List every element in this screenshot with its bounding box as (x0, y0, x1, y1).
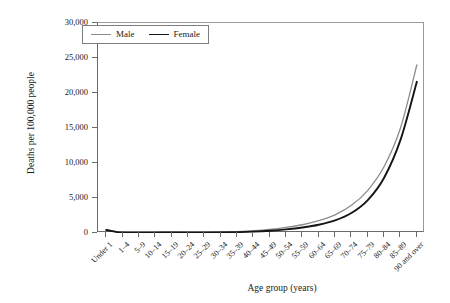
x-tick-label: 20–24 (176, 240, 197, 261)
x-tick-mark (367, 232, 368, 237)
plot-area (97, 22, 424, 232)
x-tick-label: Under 1 (90, 240, 115, 265)
series-lines (98, 23, 425, 233)
x-tick-mark (269, 232, 270, 237)
y-tick-label: 20,000 (36, 87, 88, 97)
x-tick-mark (252, 232, 253, 237)
x-tick-label: 40–44 (241, 240, 262, 261)
y-axis-title: Deaths per 100,000 people (26, 43, 36, 203)
x-axis-title: Age group (years) (0, 283, 450, 293)
y-tick-label: 15,000 (36, 122, 88, 132)
x-tick-label: 15–19 (159, 240, 180, 261)
x-tick-mark (399, 232, 400, 237)
x-tick-mark (187, 232, 188, 237)
x-tick-mark (171, 232, 172, 237)
x-tick-mark (285, 232, 286, 237)
x-tick-label: 50–54 (274, 240, 295, 261)
x-tick-mark (138, 232, 139, 237)
x-tick-label: 30–34 (208, 240, 229, 261)
y-tick-label: 25,000 (36, 52, 88, 62)
legend-item-male: Male (91, 30, 135, 39)
y-tick-label: 5,000 (36, 192, 88, 202)
x-tick-mark (334, 232, 335, 237)
x-tick-mark (122, 232, 123, 237)
x-tick-mark (154, 232, 155, 237)
legend-item-female: Female (149, 30, 201, 39)
y-tick-label: 10,000 (36, 157, 88, 167)
x-tick-label: 55–59 (290, 240, 311, 261)
x-tick-label: 25–29 (192, 240, 213, 261)
x-axis-title-text: Age group (years) (247, 283, 316, 293)
y-tick-label: 30,000 (36, 17, 88, 27)
x-tick-label: 80–84 (372, 240, 393, 261)
x-tick-mark (220, 232, 221, 237)
x-tick-mark (301, 232, 302, 237)
x-tick-mark (350, 232, 351, 237)
chart-legend: Male Female (82, 25, 209, 44)
legend-label-male: Male (116, 30, 135, 39)
x-tick-mark (416, 232, 417, 237)
x-tick-label: 70–74 (339, 240, 360, 261)
legend-swatch-male-icon (91, 34, 111, 35)
x-tick-mark (203, 232, 204, 237)
x-tick-label: 60–64 (307, 240, 328, 261)
y-tick-label: 0 (36, 227, 88, 237)
x-tick-label: 1–4 (116, 240, 131, 255)
x-tick-label: 65–69 (323, 240, 344, 261)
mortality-by-age-chart: Deaths per 100,000 people 05,00010,00015… (0, 0, 450, 303)
x-tick-label: 45–49 (258, 240, 279, 261)
x-tick-mark (236, 232, 237, 237)
x-tick-mark (383, 232, 384, 237)
x-tick-label: 35–39 (225, 240, 246, 261)
y-tick-mark (92, 232, 97, 233)
legend-swatch-female-icon (149, 34, 169, 35)
line-series-male (106, 65, 417, 233)
legend-label-female: Female (174, 30, 201, 39)
line-series-female (106, 82, 417, 233)
x-tick-mark (105, 232, 106, 237)
x-tick-label: 10–14 (143, 240, 164, 261)
x-tick-label: 75–79 (356, 240, 377, 261)
x-tick-mark (318, 232, 319, 237)
